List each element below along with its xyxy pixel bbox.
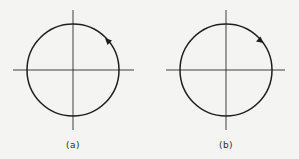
panel-b xyxy=(166,10,285,130)
diagram-svg xyxy=(0,0,299,159)
figure-canvas: (a) (b) xyxy=(0,0,299,159)
panel-b-label: (b) xyxy=(219,140,233,150)
panel-a xyxy=(13,10,134,130)
panel-a-label: (a) xyxy=(66,140,80,150)
panel-b-arrow-clockwise-icon xyxy=(256,37,264,44)
